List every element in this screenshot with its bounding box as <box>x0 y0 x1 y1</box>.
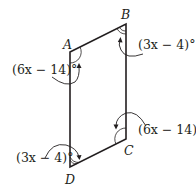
vertex-label-d: D <box>64 172 75 187</box>
parallelogram-diagram: A B C D (6x − 14)° (3x − 4)° (6x − 14)° … <box>0 0 196 195</box>
vertex-label-c: C <box>124 143 134 158</box>
angle-label-d: (3x − 4)° <box>16 150 73 165</box>
angle-label-b: (3x − 4)° <box>138 37 195 52</box>
angle-arc-b-inner <box>120 27 127 31</box>
vertex-label-b: B <box>120 7 130 22</box>
angle-label-a: (6x − 14)° <box>12 62 77 77</box>
parallelogram-abcd <box>70 24 126 167</box>
angle-label-c: (6x − 14)° <box>138 122 196 137</box>
vertex-label-a: A <box>62 37 72 52</box>
